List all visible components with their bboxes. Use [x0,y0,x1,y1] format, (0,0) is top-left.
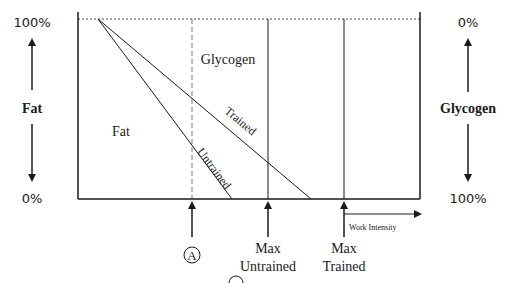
max-untrained-label-line2: Untrained [240,259,296,274]
max-untrained-label-line1: Max [255,241,281,256]
untrained-line-label: Untrained [194,145,234,192]
left-axis-top-label: 100% [13,15,50,30]
fat-region-label: Fat [112,124,130,139]
partial-circle-icon [229,276,243,283]
right-axis-top-label: 0% [458,15,479,30]
left-axis-title: Fat [22,101,43,116]
trained-curve [98,19,311,199]
right-axis-title: Glycogen [440,101,496,116]
max-trained-label-line1: Max [331,241,357,256]
glycogen-region-label: Glycogen [201,52,255,67]
marker-a-label: A [187,248,197,263]
max-trained-label-line2: Trained [322,259,365,274]
x-axis-label: Work Intensity [349,223,397,232]
fuel-utilization-diagram: 100% Fat 0% 0% Glycogen 100% Glycogen Fa… [0,0,513,283]
left-axis-bottom-label: 0% [22,191,43,206]
right-axis-bottom-label: 100% [449,191,486,206]
trained-line-label: Trained [222,104,259,138]
